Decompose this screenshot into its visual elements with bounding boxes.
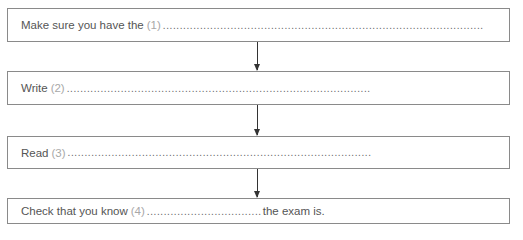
step-1-text: Make sure you have the — [21, 19, 144, 31]
step-2-number: (2) — [51, 82, 65, 94]
step-3-number: (3) — [52, 147, 66, 159]
step-box-2: Write (2) ..............................… — [7, 71, 510, 105]
step-box-4: Check that you know (4) ................… — [7, 198, 510, 224]
arrow-down-icon — [257, 105, 258, 135]
arrow-down-icon — [257, 42, 258, 70]
step-4-blank[interactable]: .................................. — [147, 206, 262, 217]
arrow-down-icon — [257, 169, 258, 197]
step-4-suffix: the exam is. — [263, 205, 325, 217]
step-1-blank[interactable]: ........................................… — [163, 20, 484, 31]
step-1-number: (1) — [147, 19, 161, 31]
step-2-blank[interactable]: ........................................… — [67, 83, 371, 94]
step-box-1: Make sure you have the (1) .............… — [7, 8, 510, 42]
step-4-text: Check that you know — [21, 205, 128, 217]
step-3-blank[interactable]: ........................................… — [68, 147, 372, 158]
step-3-text: Read — [21, 147, 49, 159]
step-4-number: (4) — [131, 205, 145, 217]
step-2-text: Write — [21, 82, 48, 94]
step-box-3: Read (3) ...............................… — [7, 136, 510, 169]
